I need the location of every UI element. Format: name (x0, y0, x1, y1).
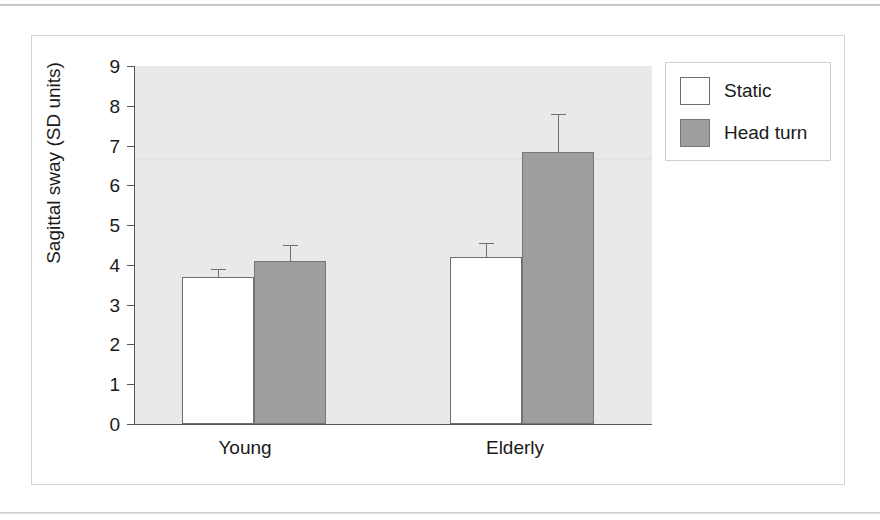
y-axis-line (134, 66, 135, 425)
y-tick-label-1: 1 (96, 375, 120, 394)
bar-elderly-static (450, 257, 522, 424)
y-tick-0 (127, 424, 134, 425)
figure-container: Sagittal sway (SD units) 0123456789 Youn… (0, 0, 880, 520)
bar-young-head-turn (254, 261, 326, 424)
legend-entry-head-turn: Head turn (680, 119, 807, 147)
y-tick-9 (127, 66, 134, 67)
legend-swatch-head-turn (680, 119, 710, 147)
error-bar-stem-young-head-turn (290, 245, 291, 261)
y-tick-1 (127, 384, 134, 385)
y-axis-title: Sagittal sway (SD units) (43, 43, 65, 283)
y-tick-label-9: 9 (96, 57, 120, 76)
y-tick-label-3: 3 (96, 296, 120, 315)
legend-label-head-turn: Head turn (724, 122, 807, 144)
y-tick-7 (127, 146, 134, 147)
y-tick-label-2: 2 (96, 335, 120, 354)
error-bar-cap-elderly-static (479, 243, 494, 244)
legend-label-static: Static (724, 80, 772, 102)
error-bar-stem-young-static (218, 269, 219, 277)
x-axis-line (134, 424, 652, 425)
error-bar-cap-young-head-turn (283, 245, 298, 246)
y-tick-label-0: 0 (96, 415, 120, 434)
scan-edge-bottom (0, 512, 880, 514)
scan-edge-top (0, 4, 880, 6)
y-tick-label-8: 8 (96, 97, 120, 116)
legend-box: Static Head turn (665, 62, 831, 161)
y-tick-4 (127, 265, 134, 266)
bar-elderly-head-turn (522, 152, 594, 424)
y-tick-label-6: 6 (96, 176, 120, 195)
category-label-elderly: Elderly (440, 437, 590, 459)
y-tick-3 (127, 305, 134, 306)
category-label-young: Young (170, 437, 320, 459)
legend-entry-static: Static (680, 77, 772, 105)
y-tick-label-5: 5 (96, 216, 120, 235)
y-tick-6 (127, 185, 134, 186)
y-tick-label-7: 7 (96, 137, 120, 156)
error-bar-cap-elderly-head-turn (551, 114, 566, 115)
bar-young-static (182, 277, 254, 424)
error-bar-stem-elderly-static (486, 243, 487, 257)
y-tick-5 (127, 225, 134, 226)
y-tick-2 (127, 344, 134, 345)
y-tick-8 (127, 106, 134, 107)
error-bar-cap-young-static (211, 269, 226, 270)
legend-swatch-static (680, 77, 710, 105)
error-bar-stem-elderly-head-turn (558, 114, 559, 152)
y-tick-label-4: 4 (96, 256, 120, 275)
